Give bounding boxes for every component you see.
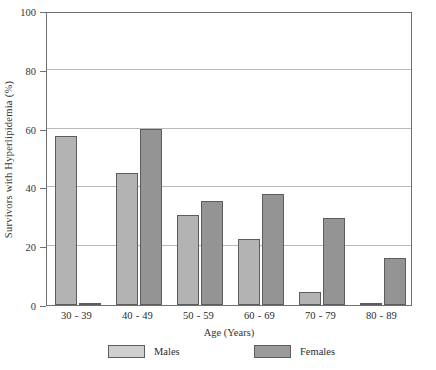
bar-females-80-89 [384, 258, 406, 305]
x-tick-label-50-59: 50 - 59 [183, 310, 214, 321]
y-axis-title: Survivors with Hyperlipidemia (%) [2, 12, 16, 306]
legend-label-females: Females [300, 346, 335, 357]
x-tick-label-30-39: 30 - 39 [61, 310, 92, 321]
y-tick-label-0: 0 [2, 301, 36, 312]
plot-area [46, 12, 412, 306]
bar-females-70-79 [323, 218, 345, 305]
x-tick-label-70-79: 70 - 79 [305, 310, 336, 321]
x-axis-title: Age (Years) [46, 327, 412, 338]
y-tick-mark-0 [40, 306, 46, 307]
y-tick-label-80: 80 [2, 65, 36, 76]
bar-group-70-79 [291, 13, 352, 305]
bar-females-60-69 [262, 194, 284, 305]
bar-males-30-39 [55, 136, 77, 305]
y-tick-label-100: 100 [2, 7, 36, 18]
x-tick-label-40-49: 40 - 49 [122, 310, 153, 321]
y-axis-title-text: Survivors with Hyperlipidemia (%) [4, 80, 15, 237]
bar-females-50-59 [201, 201, 223, 305]
bar-females-30-39 [79, 303, 101, 305]
x-tick-label-60-69: 60 - 69 [244, 310, 275, 321]
x-tick-label-80-89: 80 - 89 [366, 310, 397, 321]
bar-males-80-89 [360, 303, 382, 305]
bar-group-60-69 [230, 13, 291, 305]
chart-legend: MalesFemales [46, 345, 412, 365]
bar-chart-figure: · ·· ···· ·· ··· ···· ·· Survivors with … [0, 0, 436, 370]
bar-males-70-79 [299, 292, 321, 305]
bar-males-40-49 [116, 173, 138, 305]
bar-group-40-49 [108, 13, 169, 305]
y-tick-label-40: 40 [2, 183, 36, 194]
legend-entry-males[interactable]: Males [108, 345, 180, 358]
legend-label-males: Males [154, 346, 180, 357]
clipped-caption-artifact: · ·· ···· ·· ··· ···· ·· [60, 0, 240, 5]
y-tick-label-20: 20 [2, 242, 36, 253]
legend-swatch-females [254, 345, 291, 358]
bar-males-50-59 [177, 215, 199, 305]
bar-group-50-59 [169, 13, 230, 305]
y-tick-label-60: 60 [2, 124, 36, 135]
bar-group-30-39 [47, 13, 108, 305]
bar-group-80-89 [352, 13, 413, 305]
legend-entry-females[interactable]: Females [254, 345, 335, 358]
bar-females-40-49 [140, 129, 162, 305]
bar-males-60-69 [238, 239, 260, 305]
legend-swatch-males [108, 345, 145, 358]
